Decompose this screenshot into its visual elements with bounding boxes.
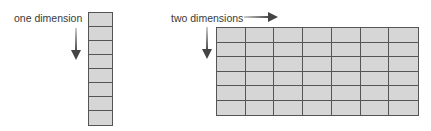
array-cell — [361, 72, 390, 87]
array-cell — [217, 28, 246, 43]
array-cell — [89, 97, 112, 111]
array-cell — [274, 28, 303, 43]
array-cell — [89, 27, 112, 41]
array-cell — [332, 101, 361, 116]
array-cell — [389, 86, 418, 101]
array-cell — [332, 86, 361, 101]
array-cell — [217, 86, 246, 101]
array-cell — [89, 111, 112, 125]
array-cell — [332, 28, 361, 43]
array-cell — [246, 72, 275, 87]
array-cell — [274, 72, 303, 87]
array-cell — [389, 101, 418, 116]
array-cell — [389, 57, 418, 72]
array-cell — [361, 28, 390, 43]
array-cell — [217, 43, 246, 58]
array-cell — [217, 57, 246, 72]
array-cell — [217, 72, 246, 87]
two-dimensional-array — [216, 27, 419, 116]
arrow-right-icon — [244, 12, 278, 22]
array-cell — [274, 57, 303, 72]
array-cell — [89, 13, 112, 27]
array-cell — [274, 86, 303, 101]
one-dimension-label: one dimension — [14, 12, 82, 24]
array-cell — [246, 28, 275, 43]
two-dimensions-label: two dimensions — [171, 12, 243, 24]
array-cell — [89, 41, 112, 55]
array-cell — [303, 72, 332, 87]
array-cell — [389, 28, 418, 43]
array-cell — [361, 43, 390, 58]
array-cell — [217, 101, 246, 116]
arrow-down-icon — [71, 28, 81, 60]
array-cell — [361, 86, 390, 101]
array-cell — [303, 57, 332, 72]
array-cell — [246, 43, 275, 58]
array-cell — [332, 43, 361, 58]
array-cell — [303, 43, 332, 58]
array-cell — [361, 57, 390, 72]
array-cell — [89, 55, 112, 69]
array-cell — [274, 43, 303, 58]
array-cell — [332, 57, 361, 72]
array-cell — [246, 101, 275, 116]
array-cell — [303, 101, 332, 116]
array-cell — [303, 86, 332, 101]
array-cell — [332, 72, 361, 87]
array-cell — [389, 72, 418, 87]
array-cell — [246, 86, 275, 101]
array-cell — [274, 101, 303, 116]
array-cell — [361, 101, 390, 116]
one-dimensional-array — [88, 12, 113, 126]
array-cell — [389, 43, 418, 58]
arrow-down-icon — [202, 27, 212, 59]
array-cell — [303, 28, 332, 43]
array-cell — [246, 57, 275, 72]
array-cell — [89, 69, 112, 83]
array-cell — [89, 83, 112, 97]
